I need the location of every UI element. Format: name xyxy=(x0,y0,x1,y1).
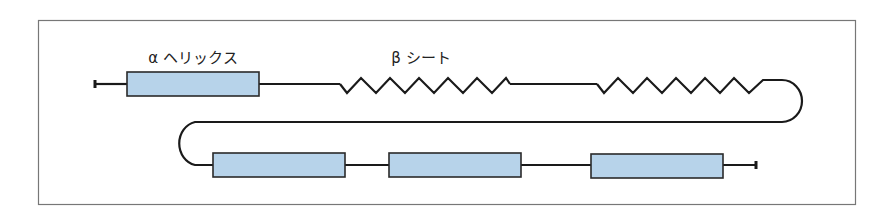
alpha-helix-3 xyxy=(389,153,521,177)
protein-structure-diagram: α ヘリックス β シート xyxy=(0,0,896,215)
beta-strand-1 xyxy=(340,78,510,93)
beta-strand-2 xyxy=(597,78,775,93)
alpha-helix-1 xyxy=(127,72,259,96)
alpha-helix-4 xyxy=(591,154,723,178)
alpha-helix-label: α ヘリックス xyxy=(148,49,238,67)
beta-sheet-label: β シート xyxy=(391,49,450,67)
alpha-helix-2 xyxy=(213,153,345,177)
